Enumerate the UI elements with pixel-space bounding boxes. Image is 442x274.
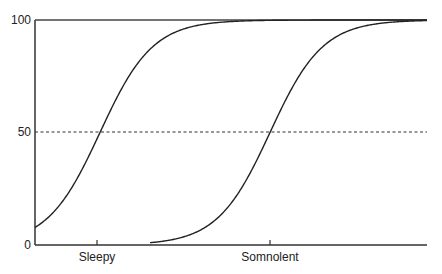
y-label-50: 50 xyxy=(18,125,32,139)
y-label-0: 0 xyxy=(24,238,31,252)
y-label-100: 100 xyxy=(11,13,31,27)
sigmoid-chart: 100 50 0 Sleepy Somnolent xyxy=(0,0,442,274)
curve-sleepy xyxy=(35,20,427,227)
x-label-somnolent: Somnolent xyxy=(241,250,299,264)
x-label-sleepy: Sleepy xyxy=(79,250,116,264)
